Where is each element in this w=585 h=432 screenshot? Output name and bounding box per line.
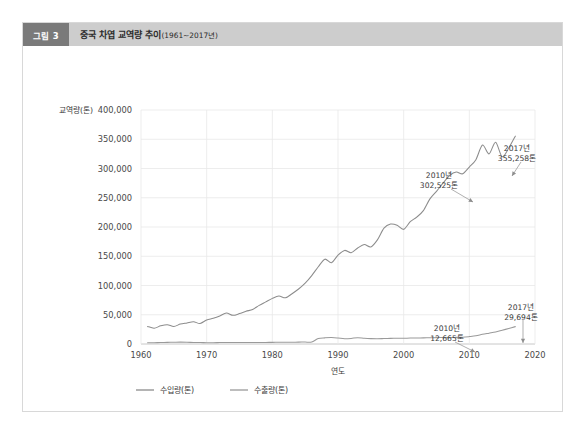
data-series bbox=[148, 136, 516, 343]
chart-legend: 수입량(톤)수출량(톤) bbox=[136, 385, 288, 395]
y-tick-400000: 400,000 bbox=[98, 105, 132, 115]
y-axis-title: 교역량(톤) bbox=[59, 105, 93, 115]
figure-header: 그림 3 중국 차엽 교역량 추이(1961~2017년) bbox=[23, 23, 562, 46]
annotation-year-export-2010: 2010년 bbox=[434, 323, 460, 333]
y-tick-150000: 150,000 bbox=[98, 251, 132, 261]
annotation-export-2010: 2010년12,665톤 bbox=[430, 323, 475, 352]
x-tick-1970: 1970 bbox=[196, 350, 217, 360]
annotation-value-import-2017: 355,258톤 bbox=[498, 154, 536, 163]
annotation-year-export-2017: 2017년 bbox=[508, 302, 534, 312]
annotation-value-import-2010: 302,525톤 bbox=[420, 181, 458, 190]
legend-label-import: 수입량(톤) bbox=[160, 385, 194, 395]
y-tick-50000: 50,000 bbox=[103, 310, 132, 320]
gridlines bbox=[141, 110, 535, 344]
x-tick-2020: 2020 bbox=[524, 350, 545, 360]
x-tick-1990: 1990 bbox=[327, 350, 348, 360]
annotation-year-import-2017: 2017년 bbox=[504, 143, 530, 153]
y-tick-100000: 100,000 bbox=[98, 281, 132, 291]
series-line-import bbox=[148, 136, 516, 328]
x-tick-2000: 2000 bbox=[393, 350, 414, 360]
annotation-arrowhead-import-2017 bbox=[512, 171, 516, 176]
x-axis-title: 연도 bbox=[331, 367, 345, 376]
annotation-import-2010: 2010년302,525톤 bbox=[420, 170, 473, 202]
figure-card: 그림 3 중국 차엽 교역량 추이(1961~2017년) 050,000100… bbox=[22, 22, 563, 412]
figure-title: 중국 차엽 교역량 추이(1961~2017년) bbox=[80, 28, 218, 41]
trade-volume-line-chart: 050,000100,000150,000200,000250,000300,0… bbox=[23, 46, 564, 413]
y-tick-0: 0 bbox=[127, 339, 132, 349]
chart-area: 050,000100,000150,000200,000250,000300,0… bbox=[23, 46, 562, 413]
annotation-export-2017: 2017년29,694톤 bbox=[504, 302, 538, 343]
x-tick-1960: 1960 bbox=[130, 350, 151, 360]
x-tick-labels: 1960197019801990200020102020 bbox=[130, 350, 545, 360]
annotation-year-import-2010: 2010년 bbox=[426, 170, 452, 180]
annotation-value-export-2017: 29,694톤 bbox=[504, 313, 538, 322]
y-tick-200000: 200,000 bbox=[98, 222, 132, 232]
y-tick-350000: 350,000 bbox=[98, 134, 132, 144]
figure-badge: 그림 3 bbox=[23, 23, 69, 46]
x-tick-2010: 2010 bbox=[459, 350, 480, 360]
annotation-value-export-2010: 12,665톤 bbox=[430, 334, 464, 343]
y-tick-300000: 300,000 bbox=[98, 164, 132, 174]
annotation-arrowhead-export-2017 bbox=[521, 339, 525, 343]
x-tick-1980: 1980 bbox=[262, 350, 283, 360]
annotation-import-2017: 2017년355,258톤 bbox=[498, 143, 536, 176]
y-tick-250000: 250,000 bbox=[98, 193, 132, 203]
figure-title-range: (1961~2017년) bbox=[161, 31, 218, 40]
figure-title-main: 중국 차엽 교역량 추이 bbox=[80, 30, 161, 40]
annotations: 2010년302,525톤2017년355,258톤2010년12,665톤20… bbox=[420, 143, 538, 352]
legend-label-export: 수출량(톤) bbox=[254, 385, 288, 395]
y-tick-labels: 050,000100,000150,000200,000250,000300,0… bbox=[98, 105, 132, 349]
